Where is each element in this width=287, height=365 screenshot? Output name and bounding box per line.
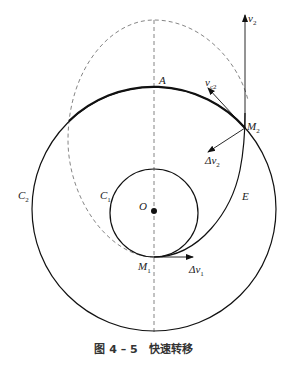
- label-a: A: [159, 75, 166, 86]
- label-e: E: [242, 191, 249, 202]
- label-m1: M1: [138, 261, 151, 275]
- outer-orbit-highlight-arc: [69, 87, 245, 128]
- delta-v2-arrow: [208, 128, 245, 152]
- dashed-ellipse: [68, 20, 248, 257]
- center-point-o: [151, 208, 157, 214]
- label-delta-v1: Δv1: [189, 264, 204, 278]
- label-vc2: vc2: [205, 77, 217, 91]
- label-v2: v2: [248, 13, 256, 27]
- label-c2: C2: [18, 190, 29, 204]
- figure-caption: 图 4 – 5 快速转移: [0, 340, 287, 356]
- transfer-diagram: [0, 0, 287, 365]
- label-delta-v2: Δv2: [205, 155, 220, 169]
- label-m2: M2: [247, 121, 260, 135]
- label-o: O: [139, 201, 147, 212]
- label-c1: C1: [100, 190, 111, 204]
- transfer-orbit-e: [154, 113, 245, 257]
- vc2-arrow: [208, 88, 245, 128]
